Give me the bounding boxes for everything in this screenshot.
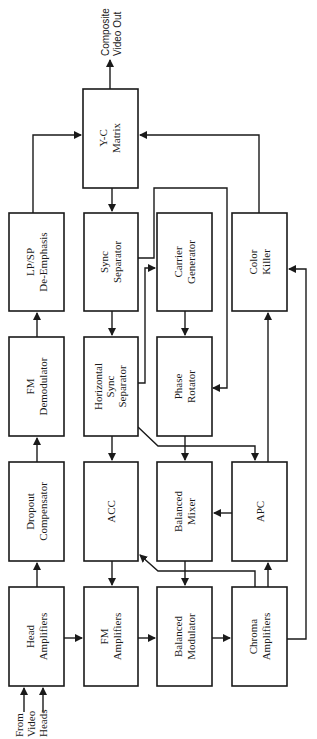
svg-text:LP/SP: LP/SP [24,248,36,276]
svg-text:From: From [13,713,25,737]
svg-text:Carrier: Carrier [172,246,184,277]
block-apc: APC [232,462,287,561]
svg-text:Y-C: Y-C [97,129,109,147]
block-horizontal-sync-separator: Horizontal Sync Separator [84,337,138,436]
block-balanced-modulator: Balanced Modulator [157,587,212,686]
block-lpsp-deemphasis: LP/SP De-Emphasis [9,213,64,311]
svg-text:Amplifiers: Amplifiers [37,613,49,661]
block-sync-separator: Sync Separator [84,213,138,311]
svg-text:Head: Head [24,624,36,648]
svg-text:Matrix: Matrix [110,123,122,153]
svg-text:Demodulator: Demodulator [37,357,49,415]
svg-text:Video: Video [25,710,37,737]
block-yc-matrix: Y-C Matrix [83,89,138,188]
block-acc: ACC [84,462,138,561]
wire-lpsp-to-yc [33,135,81,213]
block-dropout-compensator: Dropout Compensator [9,462,64,561]
svg-text:Rotator: Rotator [185,370,197,403]
svg-text:Chroma: Chroma [247,619,259,655]
block-chroma-amplifiers: Chroma Amplifiers [232,587,287,686]
block-diagram: Y-C Matrix LP/SP De-Emphasis Sync Separa… [0,0,317,739]
svg-text:Sync: Sync [104,375,116,397]
svg-text:Generator: Generator [185,240,197,284]
input-label: From Video Heads [13,710,49,738]
block-balanced-mixer: Balanced Mixer [157,462,212,561]
block-fm-amplifiers: FM Amplifiers [84,587,138,686]
svg-text:ACC: ACC [105,500,117,523]
svg-text:Phase: Phase [172,374,184,400]
svg-text:Dropout: Dropout [24,493,36,530]
svg-text:Balanced: Balanced [172,491,184,532]
svg-text:Separator: Separator [111,241,123,283]
svg-text:Sync: Sync [98,251,110,273]
svg-text:Compensator: Compensator [37,482,49,541]
wire-chroma-to-colorkiller [287,269,306,639]
svg-text:Color: Color [247,249,259,274]
svg-text:Separator: Separator [116,365,128,407]
block-carrier-generator: Carrier Generator [157,213,212,311]
block-fm-demodulator: FM Demodulator [9,337,64,436]
svg-text:De-Emphasis: De-Emphasis [37,232,49,291]
svg-text:APC: APC [254,501,266,522]
svg-text:Heads: Heads [37,710,49,738]
svg-text:Amplifiers: Amplifiers [111,613,123,661]
svg-text:Modulator: Modulator [185,613,197,660]
svg-text:Video Out: Video Out [112,11,123,56]
svg-text:Mixer: Mixer [185,498,197,525]
output-label: Composite Video Out [100,8,123,56]
wire-hsync-to-carrier [138,268,155,383]
svg-text:Horizontal: Horizontal [92,363,104,410]
svg-text:Killer: Killer [260,249,272,275]
svg-text:Composite: Composite [100,8,111,56]
svg-text:Balanced: Balanced [172,616,184,657]
wire-colorkiller-to-yc [140,135,259,213]
block-color-killer: Color Killer [232,213,287,311]
svg-text:Amplifiers: Amplifiers [260,613,272,661]
block-phase-rotator: Phase Rotator [157,337,212,436]
svg-text:FM: FM [24,378,36,394]
svg-text:FM: FM [98,628,110,644]
block-head-amplifiers: Head Amplifiers [9,587,64,686]
